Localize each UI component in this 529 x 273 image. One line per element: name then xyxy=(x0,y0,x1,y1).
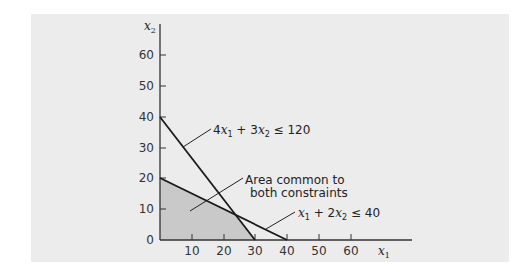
constraint-1-label: 4x1 + 3x2 ≤ 120 xyxy=(213,123,310,139)
x-tick-30: 30 xyxy=(247,244,262,258)
feasible-region xyxy=(160,178,255,240)
y-tick-10: 10 xyxy=(139,202,154,216)
y-axis-label: x2 xyxy=(144,19,156,35)
y-tick-40: 40 xyxy=(139,110,154,124)
y-tick-30: 30 xyxy=(139,141,154,155)
chart-svg: 0 10 20 30 40 50 60 10 20 30 40 50 60 x2… xyxy=(0,0,529,273)
leader-constraint-1 xyxy=(183,129,211,147)
y-tick-20: 20 xyxy=(139,171,154,185)
constraint-2-label: x1 + 2x2 ≤ 40 xyxy=(298,206,380,222)
x-tick-20: 20 xyxy=(216,244,231,258)
y-tick-50: 50 xyxy=(139,79,154,93)
leader-constraint-2 xyxy=(266,212,295,229)
x-tick-10: 10 xyxy=(184,244,199,258)
x-tick-40: 40 xyxy=(279,244,294,258)
y-tick-0: 0 xyxy=(146,233,154,247)
x-tick-50: 50 xyxy=(311,244,326,258)
x-tick-60: 60 xyxy=(343,244,358,258)
region-label-line2: both constraints xyxy=(250,186,348,200)
region-label-line1: Area common to xyxy=(245,173,345,187)
y-tick-60: 60 xyxy=(139,48,154,62)
x-axis-label: x1 xyxy=(378,244,390,260)
